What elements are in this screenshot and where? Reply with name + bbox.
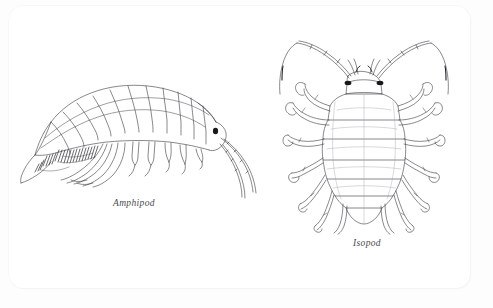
figure-isopod (277, 42, 452, 234)
isopod-body-shading (327, 95, 401, 223)
illustration-page-card: Amphipod (9, 6, 470, 288)
amphipod-body-outline (21, 85, 227, 183)
isopod-head (346, 71, 382, 94)
isopod-mouthparts (356, 66, 372, 72)
amphipod-eye (213, 128, 218, 134)
isopod-eye-left (345, 81, 352, 85)
amphipod-pleopods (61, 143, 125, 187)
isopod-eye-right (377, 81, 384, 85)
figure-amphipod (15, 52, 260, 202)
amphipod-antennae (220, 138, 256, 198)
amphipod-pereopods (129, 142, 203, 176)
isopod-legs-right (381, 83, 445, 235)
caption-amphipod: Amphipod (113, 198, 155, 208)
caption-isopod: Isopod (353, 238, 381, 248)
amphipod-setae-fine (41, 153, 95, 171)
isopod-legs-left (283, 83, 347, 235)
